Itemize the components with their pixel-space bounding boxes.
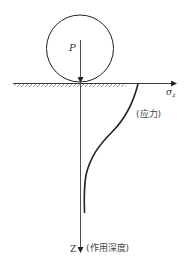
depth-axis-label: Z [70, 244, 76, 254]
stress-curve [84, 84, 138, 213]
ground-hatch [14, 84, 126, 87]
stress-axis-label-sub: z [171, 91, 176, 98]
load-label: P [68, 42, 76, 53]
stress-depth-diagram: P σz (应力) Z (作用深度) [0, 0, 190, 266]
stress-curve-label: (应力) [136, 108, 161, 119]
depth-axis-desc: (作用深度) [86, 242, 129, 253]
stress-axis-label: σz [166, 87, 176, 98]
wheel-circle [47, 15, 114, 82]
